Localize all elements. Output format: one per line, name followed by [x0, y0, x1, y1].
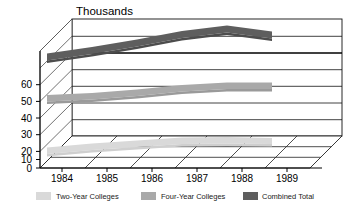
y-tick-label-30: 30 [21, 129, 33, 140]
y-tick-label-0: 0 [26, 163, 32, 174]
x-tick-label-1987: 1987 [186, 173, 209, 184]
chart-container: 60 50 40 30 20 10 0 1984 1985 1986 1987 … [0, 0, 354, 212]
legend-swatch-combined-total [243, 192, 258, 200]
legend-item-combined-total: Combined Total [243, 192, 314, 201]
x-tick-label-1985: 1985 [96, 173, 119, 184]
y-axis: 60 50 40 30 20 10 0 [21, 51, 40, 174]
x-tick-label-1986: 1986 [141, 173, 164, 184]
x-tick-label-1988: 1988 [231, 173, 254, 184]
x-tick-label-1984: 1984 [51, 173, 74, 184]
legend-item-four-year-colleges: Four-Year Colleges [141, 192, 226, 201]
y-tick-label-50: 50 [21, 96, 33, 107]
chart-title: Thousands [76, 5, 133, 17]
x-tick-label-1989: 1989 [276, 173, 299, 184]
legend-label-two-year-colleges: Two-Year Colleges [56, 192, 119, 201]
x-axis: 1984 1985 1986 1987 1988 1989 [40, 168, 322, 184]
legend-label-combined-total: Combined Total [262, 192, 314, 201]
legend-swatch-two-year-colleges [36, 192, 51, 200]
three-d-area-chart: 60 50 40 30 20 10 0 1984 1985 1986 1987 … [0, 0, 354, 212]
legend-label-four-year-colleges: Four-Year Colleges [161, 192, 226, 201]
chart-legend: Two-Year Colleges Four-Year Colleges Com… [36, 192, 314, 201]
y-tick-label-60: 60 [21, 79, 33, 90]
legend-item-two-year-colleges: Two-Year Colleges [36, 192, 119, 201]
legend-swatch-four-year-colleges [141, 192, 156, 200]
y-tick-label-40: 40 [21, 113, 33, 124]
